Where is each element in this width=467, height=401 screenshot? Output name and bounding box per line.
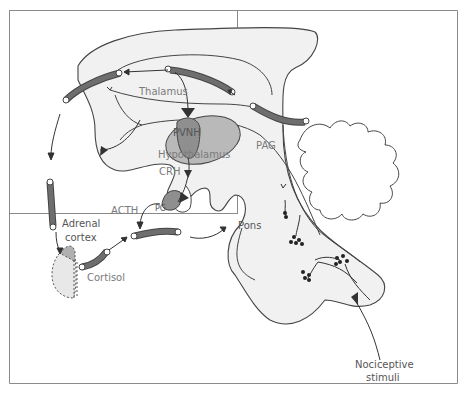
label-hypothalamus: Hypothalamus [158, 150, 231, 160]
label-nociceptive-line1: Nociceptive [355, 360, 414, 370]
label-nociceptive-line2: stimuli [366, 373, 400, 383]
cerebellum [298, 121, 399, 220]
label-thalamus: Thalamus [139, 87, 188, 97]
label-pag: PAG [256, 141, 276, 151]
label-adrenal-line2: cortex [65, 233, 97, 243]
label-pvnh: PVNH [173, 128, 201, 138]
diagram-canvas [0, 0, 467, 401]
diagram-frame: Thalamus PVNH Hypothalamus CRH ACTH PG P… [0, 0, 467, 401]
label-acth: ACTH [111, 206, 138, 216]
label-cortisol: Cortisol [87, 273, 125, 283]
label-crh: CRH [159, 167, 180, 177]
label-adrenal-line1: Adrenal [62, 219, 100, 229]
label-pg: PG [155, 205, 166, 213]
label-pons: Pons [238, 221, 261, 231]
